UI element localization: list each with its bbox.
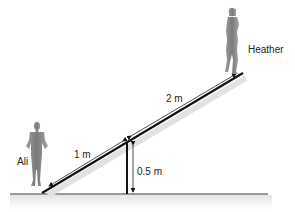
plank-shadow — [48, 78, 246, 195]
left-length-arrow — [49, 141, 123, 186]
heather-label: Heather — [248, 45, 284, 55]
seesaw-diagram — [0, 0, 295, 212]
ali-figure — [26, 122, 48, 186]
heather-figure — [225, 8, 239, 74]
pivot-height-label: 0.5 m — [137, 167, 162, 177]
ali-label: Ali — [17, 157, 28, 167]
right-length-arrow — [131, 74, 236, 136]
right-length-label: 2 m — [166, 94, 183, 104]
left-length-label: 1 m — [74, 150, 91, 160]
